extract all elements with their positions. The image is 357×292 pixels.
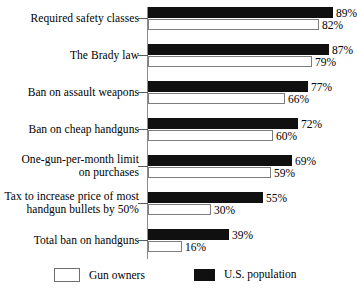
bar-value-label: 66% (285, 92, 309, 104)
bar-value-label: 69% (292, 154, 316, 166)
axis-tick (138, 55, 148, 56)
white-square-icon (54, 268, 80, 282)
grouped-bar-chart: Required safety classes 89% 82% The Brad… (0, 0, 357, 292)
legend-item-gun-owners: Gun owners (54, 268, 145, 282)
legend-label: Gun owners (89, 269, 145, 282)
bar-fill (148, 81, 308, 92)
bar-value-label: 79% (312, 55, 336, 67)
axis-tick (138, 92, 148, 93)
axis-tick (138, 203, 148, 204)
category-label: Total ban on handguns (0, 234, 139, 247)
chart-legend: Gun owners U.S. population (0, 264, 357, 292)
axis-tick (138, 129, 148, 130)
bar-fill (148, 118, 298, 129)
axis-tick (138, 240, 148, 241)
bar-fill (148, 44, 329, 55)
bar-group: Required safety classes 89% 82% (0, 4, 357, 40)
bar-group: One-gun-per-month limit on purchases 69%… (0, 152, 357, 188)
category-label: Tax to increase price of most handgun bu… (0, 190, 139, 215)
bar-fill (148, 130, 273, 141)
bar-group: Tax to increase price of most handgun bu… (0, 189, 357, 225)
bar-group: Ban on assault weapons 77% 66% (0, 78, 357, 114)
bar-fill (148, 155, 292, 166)
axis-tick (138, 18, 148, 19)
bar-fill (148, 204, 211, 215)
bar-fill (148, 93, 285, 104)
category-label: The Brady law (0, 49, 139, 62)
bar-fill (148, 7, 333, 18)
bar-value-label: 87% (329, 43, 353, 55)
plot-area: Required safety classes 89% 82% The Brad… (0, 0, 357, 262)
category-label: Ban on assault weapons (0, 86, 139, 99)
bar-value-label: 89% (333, 6, 357, 18)
bar-group: Ban on cheap handguns 72% 60% (0, 115, 357, 151)
bar-value-label: 60% (273, 129, 297, 141)
bar-fill (148, 56, 312, 67)
category-label: Required safety classes (0, 12, 139, 25)
bar-value-label: 39% (229, 228, 253, 240)
bar-fill (148, 229, 229, 240)
bar-value-label: 30% (211, 203, 235, 215)
legend-item-us-population: U.S. population (194, 268, 297, 281)
bar-value-label: 55% (263, 191, 287, 203)
bar-value-label: 72% (298, 117, 322, 129)
bar-value-label: 16% (182, 240, 206, 252)
black-square-icon (194, 269, 215, 281)
bar-group: The Brady law 87% 79% (0, 41, 357, 77)
category-label: Ban on cheap handguns (0, 123, 139, 136)
bar-value-label: 59% (271, 166, 295, 178)
bar-group: Total ban on handguns 39% 16% (0, 226, 357, 262)
bar-value-label: 77% (308, 80, 332, 92)
bar-value-label: 82% (319, 18, 343, 30)
axis-tick (138, 166, 148, 167)
category-label: One-gun-per-month limit on purchases (0, 153, 139, 178)
bar-fill (148, 241, 182, 252)
bar-fill (148, 167, 271, 178)
bar-fill (148, 19, 319, 30)
bar-fill (148, 192, 263, 203)
legend-label: U.S. population (224, 268, 297, 281)
